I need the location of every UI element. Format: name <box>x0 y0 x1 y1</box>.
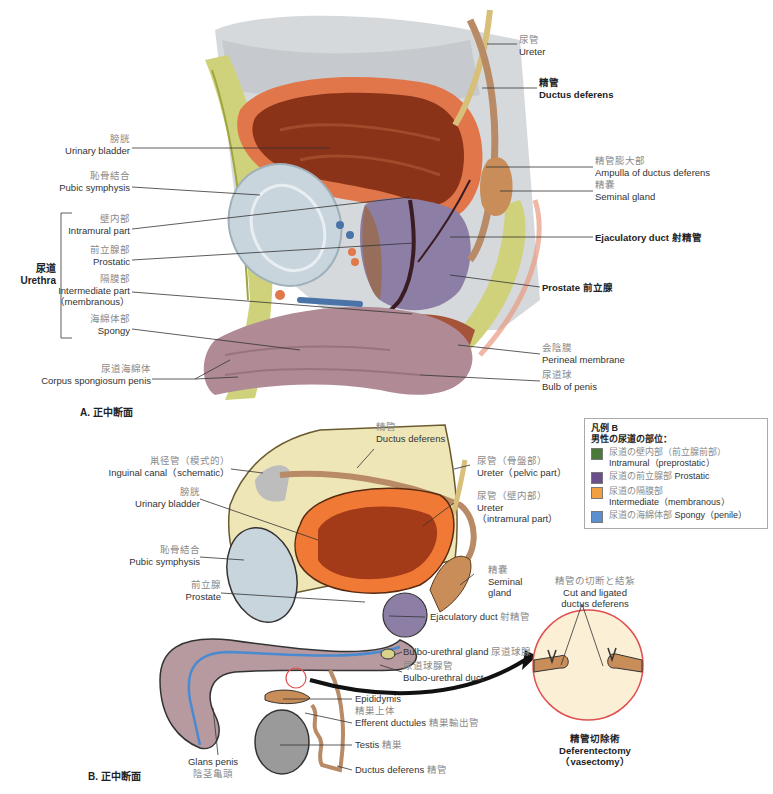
label-spongy-a: 海綿体部 Spongy <box>90 313 130 336</box>
label-intermediate-part-a: 隔膜部 Intermediate part （membranous） <box>55 273 130 308</box>
label-glans-penis-b: Glans penis 陰茎亀頭 <box>178 756 248 779</box>
label-prostate-b: 前立腺 Prostate <box>186 579 221 602</box>
figure-a-artwork <box>204 10 540 400</box>
label-inguinal-canal-b: 鼡径管（模式的） Inguinal canal（schematic） <box>109 455 230 478</box>
legend-title: 凡例 B <box>591 423 761 434</box>
legend-item-intramural: 尿道の壁内部（前立腺前部） Intramural（preprostatic） <box>591 447 761 469</box>
label-urinary-bladder-a: 膀胱 Urinary bladder <box>65 133 130 156</box>
label-bulbourethral-gland-b: Bulbo-urethral gland 尿道球腺 <box>403 646 531 658</box>
legend-swatch <box>591 448 603 460</box>
legend-item-prostatic: 尿道の前立腺部 Prostatic <box>591 471 761 484</box>
label-epididymis-b: Epididymis 精巣上体 <box>355 693 401 716</box>
label-prostatic-a: 前立腺部 Prostatic <box>90 244 130 267</box>
label-bulb-of-penis-a: 尿道球 Bulb of penis <box>542 369 597 392</box>
label-ductus-deferens-a: 精管 Ductus deferens <box>539 77 613 100</box>
label-cut-ligated-b: 精管の切断と結紮 Cut and ligated ductus deferens <box>545 575 645 610</box>
label-ductus-deferens-b-bottom: Ductus deferens 精管 <box>355 764 447 776</box>
label-seminal-gland-b: 精嚢 Seminal gland <box>488 564 522 599</box>
label-perineal-membrane-a: 会陰膜 Perineal membrane <box>542 342 625 365</box>
legend-swatch <box>591 511 603 523</box>
label-ureter-intramural-b: 尿管（壁内部） Ureter （intramural part） <box>477 490 558 525</box>
label-efferent-ductules-b: Efferent ductules 精巣輸出管 <box>355 717 479 729</box>
label-ureter-pelvic-b: 尿管（骨盤部） Ureter（pelvic part） <box>477 455 567 478</box>
legend-item-spongy: 尿道の海綿体部 Spongy（penile） <box>591 510 761 523</box>
legend-swatch <box>591 472 603 484</box>
label-prostate-a: Prostate 前立腺 <box>542 282 613 294</box>
legend-subtitle: 男性の尿道の部位： <box>591 434 761 445</box>
label-pubic-symphysis-b: 恥骨結合 Pubic symphysis <box>129 544 200 567</box>
label-urethra-group: 尿道 Urethra <box>20 263 56 286</box>
label-ureter-a: 尿管 Ureter <box>519 34 545 57</box>
figure-a-caption: A. 正中断面 <box>80 404 133 419</box>
label-pubic-symphysis-a: 恥骨結合 Pubic symphysis <box>59 170 130 193</box>
label-vasectomy-b: 精管切除術 Deferentectomy （vasectomy） <box>545 733 645 768</box>
label-ductus-deferens-b-top: 精管 Ductus deferens <box>376 421 445 444</box>
label-testis-b: Testis 精巣 <box>355 739 402 751</box>
label-ejaculatory-duct-a: Ejaculatory duct 射精管 <box>595 232 702 244</box>
label-seminal-gland-a: 精嚢 Seminal gland <box>595 179 655 202</box>
label-bulbourethral-duct-b: 尿道球腺管 Bulbo-urethral duct <box>403 660 483 683</box>
label-ampulla-a: 精管膨大部 Ampulla of ductus deferens <box>595 155 710 178</box>
legend-item-intermediate: 尿道の隔膜部 Intermediate（membranous） <box>591 486 761 508</box>
label-corpus-spongiosum-a: 尿道海綿体 Corpus spongiosum penis <box>41 363 151 386</box>
label-intramural-part-a: 壁内部 Intramural part <box>68 213 130 236</box>
anatomy-illustration <box>0 0 773 794</box>
legend-swatch <box>591 487 603 499</box>
legend-b: 凡例 B 男性の尿道の部位： 尿道の壁内部（前立腺前部） Intramural（… <box>584 418 768 529</box>
label-urinary-bladder-b: 膀胱 Urinary bladder <box>135 486 200 509</box>
figure-b-caption: B. 正中断面 <box>88 768 141 783</box>
label-ejaculatory-duct-b: Ejaculatory duct 射精管 <box>430 611 530 623</box>
